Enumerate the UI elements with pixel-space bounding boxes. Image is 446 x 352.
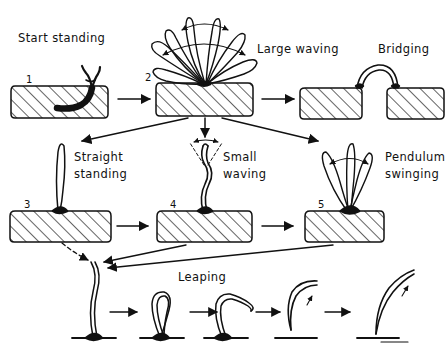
leap-stage-1 bbox=[72, 262, 116, 340]
panel-number-4: 4 bbox=[170, 199, 176, 210]
panel-number-1: 1 bbox=[26, 74, 32, 85]
leap-worm-5-outer bbox=[376, 270, 414, 334]
worm-anchor-4 bbox=[198, 208, 212, 214]
label-small-waving-line1: Small bbox=[223, 150, 257, 164]
leap-anchor-3 bbox=[215, 334, 231, 340]
arrow-p2-to-p5 bbox=[222, 118, 318, 141]
leap-stage-5 bbox=[357, 270, 414, 342]
worm-head-raised-1 bbox=[82, 66, 92, 88]
substrate-block-3 bbox=[10, 211, 111, 242]
label-straight-standing-line2: standing bbox=[74, 167, 127, 181]
arrow-p5-to-leaping bbox=[108, 245, 333, 268]
leap-anchor-1 bbox=[86, 334, 102, 340]
substrate-block-5 bbox=[305, 211, 384, 242]
label-pendulum-line1: Pendulum bbox=[385, 150, 445, 164]
waving-body-f bbox=[207, 60, 257, 84]
panel-5-pendulum-swinging bbox=[305, 144, 384, 242]
waving-arc-arrow-upper bbox=[182, 24, 228, 30]
leap-worm-3-inner bbox=[221, 299, 252, 337]
figure-canvas: Start standing Large waving Bridging Str… bbox=[0, 0, 446, 352]
label-small-waving-line2: waving bbox=[223, 167, 266, 181]
label-straight-standing-line1: Straight bbox=[74, 150, 123, 164]
panel-number-2: 2 bbox=[145, 72, 151, 83]
worm-straight-anchor-3 bbox=[53, 208, 67, 214]
pendulum-body-center bbox=[347, 144, 355, 211]
waving-body-d bbox=[206, 19, 220, 84]
leap-worm-4-inner bbox=[291, 285, 317, 330]
leap-motion-arrow-5 bbox=[402, 286, 408, 296]
leap-motion-arrow-4 bbox=[307, 296, 312, 305]
label-start-standing: Start standing bbox=[18, 31, 105, 45]
leap-stage-2 bbox=[140, 292, 184, 340]
worm-bridge-anchor-left bbox=[356, 85, 363, 88]
panel-number-5: 5 bbox=[318, 199, 324, 210]
arrow-p3-to-leaping-dashed bbox=[62, 243, 88, 260]
leaping-sequence bbox=[72, 262, 414, 342]
small-waving-cone-right bbox=[208, 143, 222, 165]
worm-small-waving-head bbox=[203, 144, 208, 146]
worm-head-raised-1b bbox=[92, 67, 100, 88]
worm-bridge-arc-inner bbox=[362, 70, 394, 88]
substrate-block-bridge-left bbox=[300, 88, 362, 119]
panel-bridging bbox=[300, 65, 444, 119]
leap-stage-3 bbox=[204, 294, 253, 340]
pendulum-anchor-5 bbox=[341, 207, 359, 214]
leap-worm-1a bbox=[91, 262, 96, 337]
arrow-p2-to-p3 bbox=[82, 118, 188, 141]
leap-anchor-2 bbox=[153, 334, 169, 340]
substrate-block-bridge-right bbox=[387, 88, 444, 119]
arrow-p4-to-leaping bbox=[104, 245, 186, 262]
label-large-waving: Large waving bbox=[257, 42, 339, 56]
panel-2-large-waving bbox=[152, 18, 257, 116]
worm-bridge-anchor-right bbox=[392, 85, 399, 88]
leap-worm-5-inner bbox=[376, 274, 414, 334]
leap-stage-4 bbox=[275, 281, 317, 338]
waving-body-e bbox=[207, 34, 245, 84]
worm-straight-standing-body bbox=[57, 144, 65, 211]
substrate-block-2 bbox=[156, 83, 253, 116]
worm-small-waving-body-2 bbox=[205, 146, 211, 211]
label-bridging: Bridging bbox=[378, 42, 429, 56]
nematode-behaviour-diagram: Start standing Large waving Bridging Str… bbox=[0, 0, 446, 352]
small-waving-sweep-arrow bbox=[194, 140, 218, 142]
substrate-block-4 bbox=[157, 211, 252, 242]
panel-number-3: 3 bbox=[24, 199, 30, 210]
label-leaping: Leaping bbox=[178, 270, 226, 284]
label-pendulum-line2: swinging bbox=[385, 167, 439, 181]
